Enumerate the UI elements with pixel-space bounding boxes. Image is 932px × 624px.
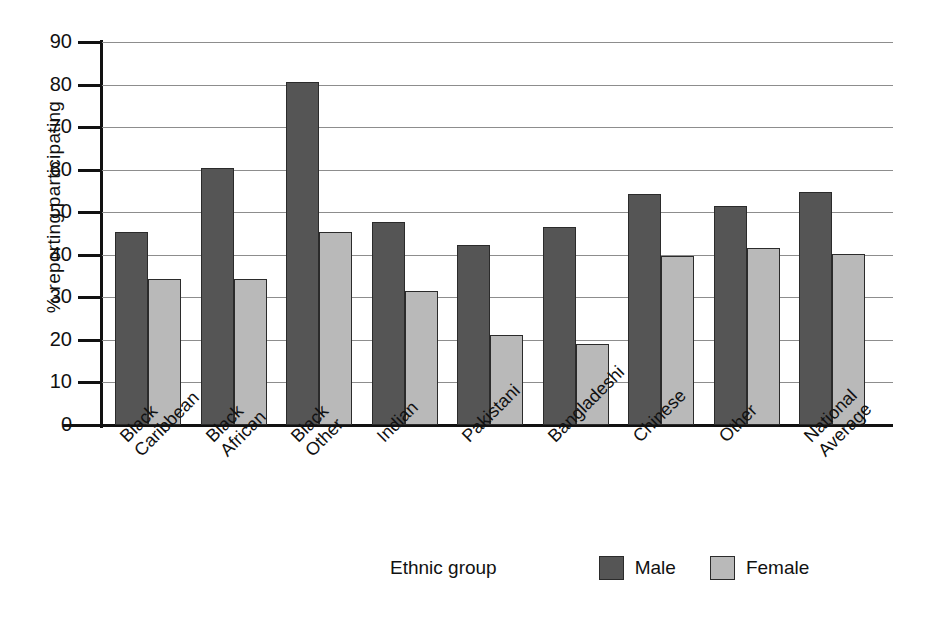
legend-label-female: Female bbox=[746, 557, 809, 579]
y-tick-mark bbox=[78, 339, 102, 342]
y-tick-mark bbox=[78, 169, 102, 172]
y-tick-label: 70 bbox=[22, 116, 72, 136]
bar-male-black-caribbean bbox=[115, 232, 148, 425]
legend-swatch-female bbox=[710, 556, 735, 580]
y-tick-label: 30 bbox=[22, 286, 72, 306]
y-tick-label: 0 bbox=[22, 414, 72, 434]
legend: Ethnic group Male Female bbox=[390, 556, 809, 580]
y-tick-mark bbox=[78, 84, 102, 87]
bar-male-chinese bbox=[628, 194, 661, 425]
legend-swatch-male bbox=[599, 556, 624, 580]
y-tick-label: 20 bbox=[22, 329, 72, 349]
y-tick-mark bbox=[78, 211, 102, 214]
y-tick-mark bbox=[78, 126, 102, 129]
bar-male-other bbox=[714, 206, 747, 425]
y-tick-mark bbox=[78, 254, 102, 257]
bar-chart: % reporting participating 01020304050607… bbox=[0, 0, 932, 624]
legend-label-male: Male bbox=[635, 557, 676, 579]
y-tick-label: 50 bbox=[22, 201, 72, 221]
legend-item-male: Male bbox=[599, 556, 676, 580]
y-tick-mark bbox=[78, 424, 102, 427]
x-axis-title: Ethnic group bbox=[390, 557, 497, 579]
y-tick-mark bbox=[78, 296, 102, 299]
bar-male-national-average bbox=[799, 192, 832, 425]
y-tick-label: 60 bbox=[22, 159, 72, 179]
y-tick-label: 40 bbox=[22, 244, 72, 264]
bar-male-bangladeshi bbox=[543, 227, 576, 425]
y-tick-mark bbox=[78, 381, 102, 384]
y-tick-label: 90 bbox=[22, 31, 72, 51]
y-tick-label: 80 bbox=[22, 74, 72, 94]
y-tick-mark bbox=[78, 41, 102, 44]
legend-item-female: Female bbox=[710, 556, 809, 580]
y-tick-label: 10 bbox=[22, 371, 72, 391]
